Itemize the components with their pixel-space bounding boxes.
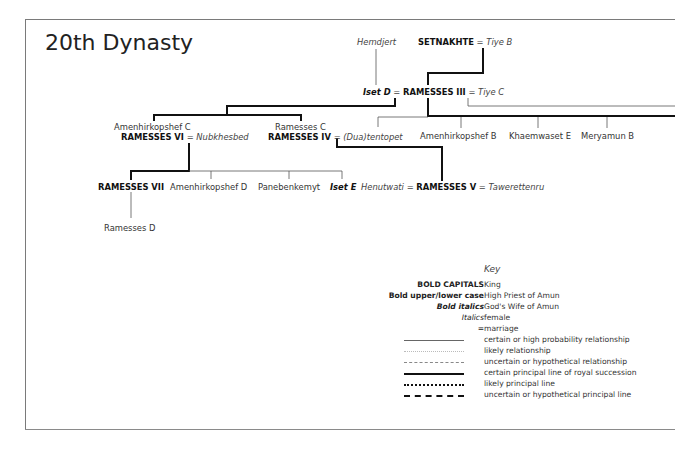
key-description: God's Wife of Amun xyxy=(484,302,559,312)
couple-ramesses-vi: RAMESSES VI = Nubkhesbed xyxy=(121,132,249,142)
person-ramesses-vi: RAMESSES VI xyxy=(121,132,184,142)
marriage-sign: = xyxy=(479,182,486,192)
key-title: Key xyxy=(484,264,500,274)
key-label: Italics xyxy=(462,313,484,323)
marriage-sign: = xyxy=(477,37,484,47)
key-description: marriage xyxy=(484,324,518,334)
person-meryamun-b: Meryamun B xyxy=(581,131,634,141)
marriage-sign: = xyxy=(334,132,341,142)
marriage-sign: = xyxy=(187,132,194,142)
person-ramesses-vii: RAMESSES VII xyxy=(98,182,164,192)
person-amenhirkopshef-b: Amenhirkopshef B xyxy=(420,131,497,141)
person-ramesses-iv: RAMESSES IV xyxy=(268,132,331,142)
person-duatentopet: (Dua)tentopet xyxy=(343,132,402,142)
key-label: Bold upper/lower case xyxy=(389,291,484,301)
person-ramesses-d: Ramesses D xyxy=(104,223,155,233)
line-setnakhte-ramesses-iii xyxy=(428,48,483,85)
line-iset-d-children xyxy=(227,98,395,115)
key-row: Italics female xyxy=(300,313,675,323)
person-tiye-c: Tiye C xyxy=(478,87,504,97)
key-description: certain or high probability relationship xyxy=(484,335,630,345)
couple-ramesses-iii: Iset D = RAMESSES III = Tiye C xyxy=(363,87,504,97)
person-henutwati: Henutwati xyxy=(361,182,404,192)
marriage-sign: = xyxy=(407,182,414,192)
key-description: female xyxy=(484,313,510,323)
key-description: likely principal line xyxy=(484,379,555,389)
person-tawerettenru: Tawerettenru xyxy=(489,182,545,192)
key-row: BOLD CAPITALS King xyxy=(300,280,675,290)
line-swatch-thick-solid xyxy=(404,373,464,375)
person-tiye-b: Tiye B xyxy=(486,37,512,47)
key-description: High Priest of Amun xyxy=(484,291,560,301)
marriage-sign: = xyxy=(393,87,400,97)
person-amenhirkopshef-c: Amenhirkopshef C xyxy=(114,122,191,132)
line-swatch-thick-dashed xyxy=(404,395,464,397)
key-description: likely relationship xyxy=(484,346,551,356)
key-label: BOLD CAPITALS xyxy=(417,280,484,290)
line-swatch-thin-dashed xyxy=(404,362,464,363)
line-swatch-solid-thin xyxy=(404,340,464,341)
person-setnakhte: SETNAKHTE xyxy=(418,37,474,47)
couple-setnakhte: SETNAKHTE = Tiye B xyxy=(418,37,512,47)
key-row: Bold upper/lower case High Priest of Amu… xyxy=(300,291,675,301)
key-row: Bold italics God's Wife of Amun xyxy=(300,302,675,312)
line-tiye-c xyxy=(468,98,675,106)
key-label: Bold italics xyxy=(437,302,484,312)
person-amenhirkopshef-d: Amenhirkopshef D xyxy=(170,182,247,192)
person-ramesses-v: RAMESSES V xyxy=(416,182,476,192)
line-ramesses-vi-vii xyxy=(131,143,189,180)
person-iset-e: Iset E xyxy=(330,182,356,192)
line-swatch-thick-dotted xyxy=(404,384,464,386)
key-row: uncertain or hypothetical principal line xyxy=(300,390,675,400)
person-ramesses-c: Ramesses C xyxy=(275,122,326,132)
key-description: King xyxy=(484,280,501,290)
line-ramesses-iii-principal xyxy=(428,98,675,116)
line-swatch-light-dotted xyxy=(404,351,464,352)
key-description: uncertain or hypothetical principal line xyxy=(484,390,631,400)
key-row: uncertain or hypothetical relationship xyxy=(300,357,675,367)
line-branch-c xyxy=(154,115,301,121)
person-ramesses-iii: RAMESSES III xyxy=(403,87,466,97)
couple-ramesses-iv: RAMESSES IV = (Dua)tentopet xyxy=(268,132,403,142)
line-duatentopet xyxy=(378,117,428,127)
key-row: likely principal line xyxy=(300,379,675,389)
key-row: = marriage xyxy=(300,324,675,334)
line-ramesses-iv-v xyxy=(337,138,442,181)
key-description: uncertain or hypothetical relationship xyxy=(484,357,627,367)
key-row: certain or high probability relationship xyxy=(300,335,675,345)
key-description: certain principal line of royal successi… xyxy=(484,368,636,378)
couple-ramesses-v: Henutwati = RAMESSES V = Tawerettenru xyxy=(361,182,544,192)
person-nubkhesbed: Nubkhesbed xyxy=(196,132,248,142)
person-khaemwaset-e: Khaemwaset E xyxy=(509,131,571,141)
key-row: certain principal line of royal successi… xyxy=(300,368,675,378)
person-panebenkemyt: Panebenkemyt xyxy=(258,182,320,192)
person-hemdjert: Hemdjert xyxy=(357,37,396,47)
marriage-sign: = xyxy=(468,87,475,97)
person-iset-d: Iset D xyxy=(363,87,391,97)
key-row: likely relationship xyxy=(300,346,675,356)
